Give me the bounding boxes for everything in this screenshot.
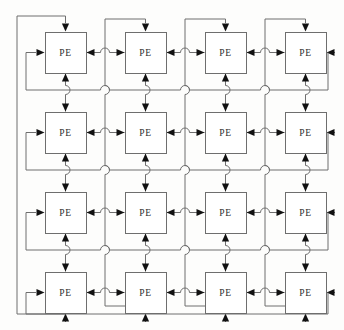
vlink-2-1 bbox=[142, 234, 150, 272]
pe-node[interactable]: PE bbox=[286, 273, 327, 314]
arrowhead bbox=[302, 184, 309, 192]
pe-node[interactable]: PE bbox=[286, 33, 327, 74]
arrowhead bbox=[62, 184, 69, 192]
vlink-1-1 bbox=[142, 154, 150, 192]
vlink-0-0 bbox=[62, 74, 70, 112]
line-hop bbox=[181, 86, 190, 91]
pe-label: PE bbox=[219, 48, 231, 58]
arrowhead bbox=[247, 129, 255, 136]
arrowhead bbox=[277, 209, 285, 216]
pe-label: PE bbox=[59, 288, 71, 298]
line-hop bbox=[101, 246, 110, 251]
arrowhead bbox=[117, 129, 125, 136]
arrowhead bbox=[197, 49, 205, 56]
vlink-1-3 bbox=[302, 154, 310, 192]
pe-label: PE bbox=[299, 128, 311, 138]
line-hop bbox=[261, 86, 270, 91]
arrowhead bbox=[197, 209, 205, 216]
arrowhead bbox=[302, 314, 309, 322]
arrowhead bbox=[222, 314, 229, 322]
arrowhead bbox=[117, 209, 125, 216]
arrowhead bbox=[277, 289, 285, 296]
arrowhead bbox=[87, 49, 95, 56]
arrowhead bbox=[222, 234, 229, 242]
line-hop bbox=[261, 246, 270, 251]
arrowhead bbox=[302, 234, 309, 242]
line-hop bbox=[181, 246, 190, 251]
arrowhead bbox=[142, 104, 149, 112]
line-hop bbox=[181, 166, 190, 171]
arrowhead bbox=[302, 104, 309, 112]
pe-node[interactable]: PE bbox=[126, 33, 167, 74]
arrowhead bbox=[142, 24, 149, 32]
arrowhead bbox=[247, 49, 255, 56]
vlink-0-3 bbox=[302, 74, 310, 112]
pe-label: PE bbox=[59, 48, 71, 58]
arrowhead bbox=[302, 264, 309, 272]
pe-node[interactable]: PE bbox=[206, 33, 247, 74]
pe-node[interactable]: PE bbox=[206, 113, 247, 154]
pe-node[interactable]: PE bbox=[126, 273, 167, 314]
arrowhead bbox=[277, 49, 285, 56]
vlink-2-2 bbox=[222, 234, 230, 272]
arrowhead bbox=[167, 129, 175, 136]
arrowhead bbox=[222, 154, 229, 162]
arrowhead bbox=[197, 289, 205, 296]
pe-label: PE bbox=[219, 288, 231, 298]
pe-node[interactable]: PE bbox=[126, 113, 167, 154]
line-hop bbox=[101, 86, 110, 91]
arrowhead bbox=[222, 184, 229, 192]
arrowhead bbox=[62, 24, 69, 32]
vlink-1-0 bbox=[62, 154, 70, 192]
pe-label: PE bbox=[219, 208, 231, 218]
arrowhead bbox=[167, 289, 175, 296]
pe-node[interactable]: PE bbox=[46, 273, 87, 314]
arrowhead bbox=[222, 24, 229, 32]
arrowhead bbox=[117, 49, 125, 56]
arrowhead bbox=[277, 129, 285, 136]
pe-nodes: PEPEPEPEPEPEPEPEPEPEPEPEPEPEPEPE bbox=[46, 33, 327, 314]
line-hop bbox=[101, 166, 110, 171]
arrowhead bbox=[37, 49, 45, 56]
line-hop bbox=[261, 166, 270, 171]
pe-node[interactable]: PE bbox=[206, 193, 247, 234]
vlink-0-1 bbox=[142, 74, 150, 112]
network-svg: PEPEPEPEPEPEPEPEPEPEPEPEPEPEPEPE bbox=[0, 0, 344, 330]
pe-label: PE bbox=[299, 48, 311, 58]
arrowhead bbox=[142, 154, 149, 162]
vlink-2-3 bbox=[302, 234, 310, 272]
pe-label: PE bbox=[139, 48, 151, 58]
pe-node[interactable]: PE bbox=[46, 113, 87, 154]
arrowhead bbox=[62, 104, 69, 112]
pe-node[interactable]: PE bbox=[286, 113, 327, 154]
torus-network-diagram: PEPEPEPEPEPEPEPEPEPEPEPEPEPEPEPE bbox=[0, 0, 344, 330]
pe-label: PE bbox=[139, 208, 151, 218]
pe-node[interactable]: PE bbox=[286, 193, 327, 234]
arrowhead bbox=[167, 209, 175, 216]
pe-node[interactable]: PE bbox=[46, 33, 87, 74]
arrowhead bbox=[62, 154, 69, 162]
arrowhead bbox=[142, 314, 149, 322]
arrowhead bbox=[197, 129, 205, 136]
arrowhead bbox=[302, 24, 309, 32]
arrowhead bbox=[142, 184, 149, 192]
pe-label: PE bbox=[59, 208, 71, 218]
vlink-0-2 bbox=[222, 74, 230, 112]
pe-node[interactable]: PE bbox=[46, 193, 87, 234]
arrowhead bbox=[302, 154, 309, 162]
pe-label: PE bbox=[299, 208, 311, 218]
pe-label: PE bbox=[139, 128, 151, 138]
arrowhead bbox=[167, 49, 175, 56]
arrowhead bbox=[302, 74, 309, 82]
arrowhead bbox=[222, 264, 229, 272]
pe-node[interactable]: PE bbox=[126, 193, 167, 234]
arrowhead bbox=[142, 74, 149, 82]
arrowhead bbox=[37, 209, 45, 216]
arrowhead bbox=[117, 289, 125, 296]
pe-label: PE bbox=[219, 128, 231, 138]
pe-label: PE bbox=[59, 128, 71, 138]
arrowhead bbox=[37, 129, 45, 136]
pe-node[interactable]: PE bbox=[206, 273, 247, 314]
arrowhead bbox=[62, 74, 69, 82]
arrowhead bbox=[247, 209, 255, 216]
